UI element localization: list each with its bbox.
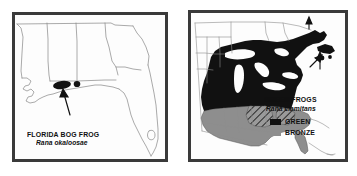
legend-label-green: GREEN [285, 117, 310, 126]
subspecies-legend: GREEN BRONZE [270, 117, 317, 139]
map-background-left [15, 15, 165, 159]
green-frog-panel: GREEN FROGS Rana clamitans GREEN BRONZE [188, 10, 348, 162]
frog-range-figure: FLORIDA BOG FROG Rana okaloosae [0, 0, 357, 176]
florida-bog-frog-panel: FLORIDA BOG FROG Rana okaloosae [12, 12, 168, 162]
legend-swatch-bronze-icon [270, 130, 281, 136]
legend-swatch-green-icon [270, 119, 281, 125]
florida-bog-frog-map [15, 15, 165, 159]
legend-item-green: GREEN [270, 117, 317, 126]
legend-label-bronze: BRONZE [285, 128, 315, 137]
green-frog-map [191, 13, 345, 159]
legend-item-bronze: BRONZE [270, 128, 317, 137]
range-patch-florida-panhandle-2 [74, 81, 81, 87]
